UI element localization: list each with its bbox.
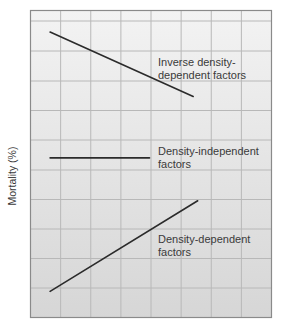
y-axis-label: Mortality (%) — [6, 126, 18, 226]
annotation-line: factors — [158, 246, 250, 259]
annotation-density-independent: Density-independent factors — [158, 145, 259, 170]
annotation-line: Inverse density- — [158, 56, 246, 69]
annotation-inverse-density-dependent: Inverse density- dependent factors — [158, 56, 246, 81]
annotation-density-dependent: Density-dependent factors — [158, 233, 250, 258]
annotation-line: Density-independent — [158, 145, 259, 158]
annotation-line: factors — [158, 158, 259, 171]
annotation-line: Density-dependent — [158, 233, 250, 246]
annotation-line: dependent factors — [158, 69, 246, 82]
